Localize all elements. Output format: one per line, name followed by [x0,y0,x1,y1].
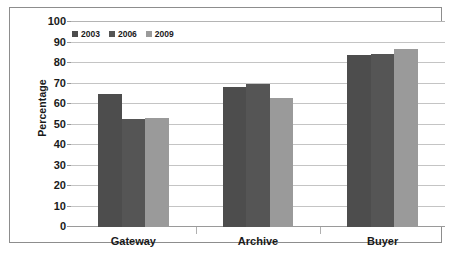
y-tick-label: 20 [54,179,66,191]
legend-item-2003: 2003 [72,29,100,39]
category-separator [196,227,197,234]
y-tick-label: 40 [54,138,66,150]
y-tick-mark [67,165,71,166]
category-separator [320,227,321,234]
y-tick-label: 90 [54,36,66,48]
chart-frame: Percentage 0102030405060708090100 Gatewa… [9,7,442,243]
bar-buyer-2009 [394,49,417,227]
bar-buyer-2003 [347,55,370,227]
chart-legend: 200320062009 [70,28,176,40]
bar-archive-2003 [223,87,246,227]
legend-label: 2006 [118,29,137,39]
y-tick-label: 0 [60,220,66,232]
plot-area: 0102030405060708090100 GatewayArchiveBuy… [71,22,445,227]
y-tick-mark [67,83,71,84]
bar-buyer-2006 [371,54,394,227]
bar-archive-2009 [270,98,293,227]
legend-item-2006: 2006 [109,29,137,39]
y-tick-mark [67,206,71,207]
y-tick-label: 30 [54,159,66,171]
bar-gateway-2003 [98,94,121,227]
bar-gateway-2009 [145,118,168,227]
y-tick-label: 60 [54,97,66,109]
y-tick-label: 70 [54,77,66,89]
bar-archive-2006 [246,84,269,228]
legend-label: 2009 [155,29,174,39]
y-tick-label: 50 [54,118,66,130]
y-tick-mark [67,21,71,22]
x-tick-label: Buyer [367,235,398,247]
y-tick-label: 10 [54,200,66,212]
gridline: 100 [71,21,445,22]
chart-figure: Percentage 0102030405060708090100 Gatewa… [0,0,452,253]
y-tick-mark [67,185,71,186]
y-axis-title: Percentage [36,68,52,148]
x-tick-label: Gateway [111,235,156,247]
legend-label: 2003 [81,29,100,39]
legend-swatch-icon [72,31,78,37]
y-tick-mark [67,42,71,43]
legend-item-2009: 2009 [146,29,174,39]
y-tick-label: 80 [54,56,66,68]
bar-gateway-2006 [122,119,145,227]
legend-swatch-icon [109,31,115,37]
legend-swatch-icon [146,31,152,37]
y-tick-mark [67,62,71,63]
gridline: 90 [71,42,445,43]
y-tick-mark [67,226,71,227]
y-tick-mark [67,144,71,145]
y-tick-mark [67,103,71,104]
y-tick-label: 100 [48,15,66,27]
x-tick-label: Archive [238,235,278,247]
y-tick-mark [67,124,71,125]
